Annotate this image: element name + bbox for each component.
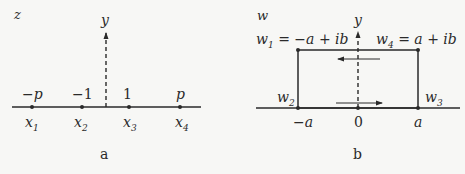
caption-a: a bbox=[100, 146, 108, 162]
w4-label: w4 = a + ib bbox=[376, 31, 457, 50]
y-axis-label: y bbox=[353, 12, 363, 28]
tick-a: a bbox=[414, 114, 422, 130]
point-bottom-label: x4 bbox=[175, 114, 189, 133]
y-axis-label: y bbox=[100, 12, 110, 28]
panel-b: w y w1 = −a + ib w4 = a + ib w2 w3 −a 0 … bbox=[256, 8, 460, 162]
point-top-label: −1 bbox=[72, 86, 93, 102]
tick-zero: 0 bbox=[354, 114, 363, 130]
w1-label: w1 = −a + ib bbox=[256, 31, 349, 50]
point-dot bbox=[127, 105, 131, 109]
point-top-label: p bbox=[176, 86, 185, 102]
point-x1: −p x1 bbox=[22, 86, 43, 133]
w3-label: w3 bbox=[425, 89, 443, 108]
plane-label-z: z bbox=[13, 7, 21, 22]
origin-dot bbox=[356, 106, 360, 110]
caption-b: b bbox=[353, 146, 362, 162]
plane-label-w: w bbox=[257, 8, 268, 23]
point-x2: −1 x2 bbox=[72, 86, 93, 133]
point-bottom-label: x3 bbox=[123, 114, 137, 133]
point-x3: 1 x3 bbox=[123, 86, 137, 133]
conformal-map-diagram: z y −p x1 −1 x2 1 x3 p x4 a w y w1 = bbox=[0, 0, 465, 174]
point-dot bbox=[30, 105, 34, 109]
tick-minus-a: −a bbox=[293, 114, 313, 130]
point-top-label: 1 bbox=[123, 86, 132, 102]
w2-label: w2 bbox=[277, 89, 295, 108]
vertex-w1-dot bbox=[296, 48, 300, 52]
point-dot bbox=[80, 105, 84, 109]
vertex-w4-dot bbox=[416, 48, 420, 52]
point-top-label: −p bbox=[22, 86, 43, 102]
point-x4: p x4 bbox=[175, 86, 189, 133]
panel-a: z y −p x1 −1 x2 1 x3 p x4 a bbox=[12, 7, 201, 162]
vertex-w2-dot bbox=[296, 106, 300, 110]
point-dot bbox=[178, 105, 182, 109]
point-bottom-label: x2 bbox=[74, 114, 88, 133]
point-bottom-label: x1 bbox=[25, 114, 39, 133]
vertex-w3-dot bbox=[416, 106, 420, 110]
